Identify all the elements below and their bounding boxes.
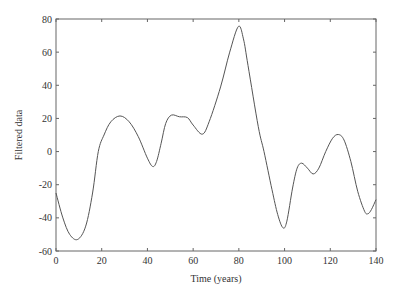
y-tick-label: 20 bbox=[42, 113, 52, 124]
y-axis-label: Filtered data bbox=[13, 109, 24, 160]
y-tick-label: 0 bbox=[47, 146, 52, 157]
x-tick-label: 140 bbox=[369, 255, 384, 266]
x-tick-label: 0 bbox=[54, 255, 59, 266]
x-axis-label: Time (years) bbox=[190, 273, 241, 285]
y-tick-label: 40 bbox=[42, 80, 52, 91]
x-tick-label: 20 bbox=[97, 255, 107, 266]
y-tick-label: -40 bbox=[39, 212, 52, 223]
y-tick-label: 60 bbox=[42, 47, 52, 58]
y-tick-label: -60 bbox=[39, 246, 52, 257]
y-tick-label: -20 bbox=[39, 179, 52, 190]
x-tick-label: 60 bbox=[188, 255, 198, 266]
line-chart: 020406080100120140 -60-40-20020406080 Ti… bbox=[0, 0, 397, 297]
x-tick-label: 120 bbox=[323, 255, 338, 266]
x-tick-label: 100 bbox=[277, 255, 292, 266]
x-tick-label: 40 bbox=[142, 255, 152, 266]
y-tick-label: 80 bbox=[42, 14, 52, 25]
x-tick-label: 80 bbox=[234, 255, 244, 266]
